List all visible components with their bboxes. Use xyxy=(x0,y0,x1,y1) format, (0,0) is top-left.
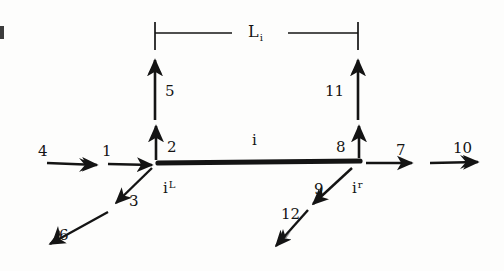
arrow-label-11: 11 xyxy=(325,84,344,99)
arrow-4 xyxy=(47,158,97,172)
beam-member xyxy=(158,161,360,163)
arrow-label-1: 1 xyxy=(102,144,112,159)
length-label: Li xyxy=(248,24,263,43)
arrow-label-10: 10 xyxy=(453,141,472,156)
left-node-label: iL xyxy=(163,180,175,196)
arrow-label-2: 2 xyxy=(167,140,177,155)
arrow-label-7: 7 xyxy=(396,143,406,158)
right-node-label: ir xyxy=(352,180,363,196)
arrow-label-12: 12 xyxy=(281,207,300,222)
arrow-label-6: 6 xyxy=(59,228,69,243)
arrow-label-8: 8 xyxy=(336,140,346,155)
arrow-10 xyxy=(430,155,478,169)
arrow-1 xyxy=(108,164,152,165)
arrow-5 xyxy=(148,60,162,120)
arrow-label-3: 3 xyxy=(129,194,139,209)
arrow-label-4: 4 xyxy=(38,144,48,159)
beam-element-diagram: Li 5 2 11 8 4 1 3 6 9 12 7 10 i iL ir xyxy=(0,0,504,271)
arrow-label-5: 5 xyxy=(165,84,175,99)
element-label: i xyxy=(252,133,257,148)
arrow-label-9: 9 xyxy=(314,182,324,197)
arrow-11 xyxy=(351,60,365,120)
